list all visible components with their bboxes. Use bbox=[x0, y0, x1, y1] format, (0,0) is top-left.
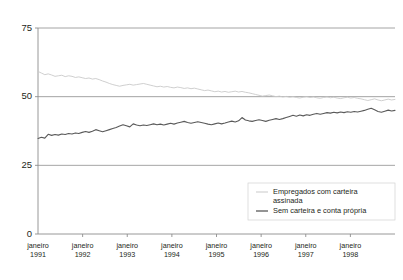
x-tick-label-year-1998: 1998 bbox=[342, 250, 358, 259]
x-tick-label-year-1993: 1993 bbox=[119, 250, 135, 259]
y-tick-label-0: 0 bbox=[27, 228, 32, 239]
legend-label-0-1: assinada bbox=[273, 196, 303, 205]
y-tick-label-25: 25 bbox=[21, 159, 32, 170]
x-tick-label-year-1996: 1996 bbox=[253, 250, 269, 259]
y-tick-labels: 0255075 bbox=[21, 22, 38, 239]
x-tick-label-month-1992: janeiro bbox=[71, 241, 94, 250]
series-lines bbox=[38, 71, 395, 138]
y-tick-label-75: 75 bbox=[21, 22, 32, 33]
series-line-1 bbox=[38, 108, 395, 138]
legend-label-1-0: Sem carteira e conta própria bbox=[273, 206, 367, 215]
x-tick-label-year-1992: 1992 bbox=[75, 250, 91, 259]
x-tick-label-year-1994: 1994 bbox=[164, 250, 180, 259]
chart-container: 0255075 janeiro1991janeiro1992janeiro199… bbox=[0, 0, 403, 280]
x-tick-label-month-1995: janeiro bbox=[205, 241, 228, 250]
x-tick-label-month-1993: janeiro bbox=[115, 241, 138, 250]
line-chart: 0255075 janeiro1991janeiro1992janeiro199… bbox=[0, 0, 403, 280]
x-tick-label-month-1998: janeiro bbox=[339, 241, 362, 250]
x-tick-label-month-1997: janeiro bbox=[294, 241, 317, 250]
legend: Empregados com carteiraassinadaSem carte… bbox=[248, 183, 395, 220]
x-tick-label-year-1995: 1995 bbox=[209, 250, 225, 259]
x-tick-label-month-1994: janeiro bbox=[160, 241, 183, 250]
x-tick-labels: janeiro1991janeiro1992janeiro1993janeiro… bbox=[26, 241, 361, 259]
x-tick-label-month-1996: janeiro bbox=[249, 241, 272, 250]
x-tick-label-year-1991: 1991 bbox=[30, 250, 46, 259]
x-tick-label-year-1997: 1997 bbox=[298, 250, 314, 259]
x-tick-label-month-1991: janeiro bbox=[26, 241, 49, 250]
y-tick-label-50: 50 bbox=[21, 90, 32, 101]
legend-label-0-0: Empregados com carteira bbox=[273, 187, 359, 196]
